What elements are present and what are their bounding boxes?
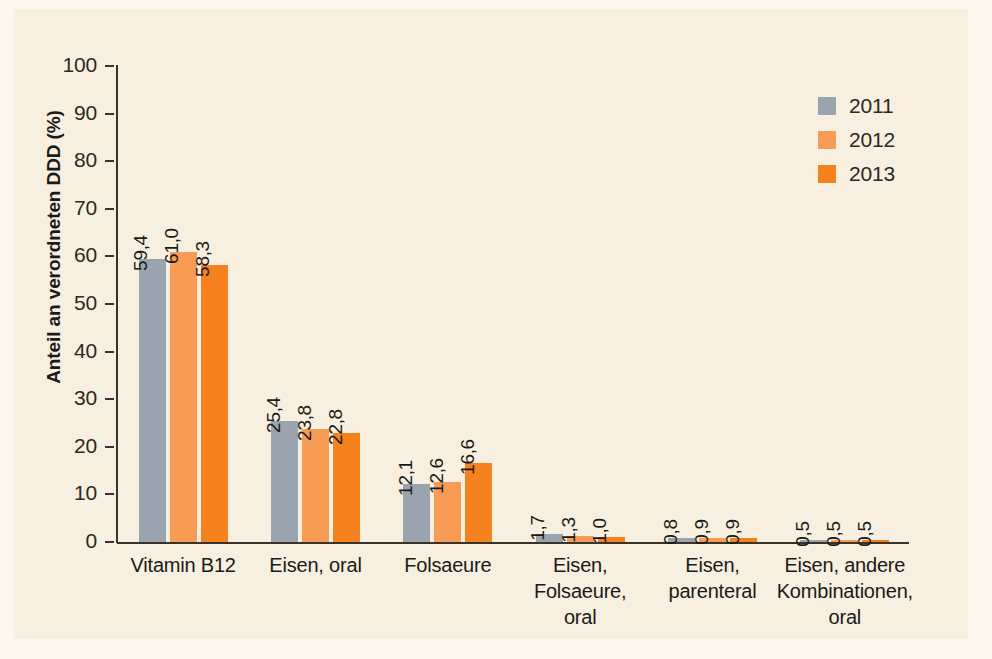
bar-value-label: 23,8 xyxy=(294,405,316,441)
y-axis-tick-mark xyxy=(105,160,114,162)
bar[interactable]: 12,6 xyxy=(434,482,461,542)
y-axis-tick-mark xyxy=(105,398,114,400)
bar[interactable]: 1,0 xyxy=(598,537,625,542)
x-axis-category-label: Eisen, andereKombinationen,oral xyxy=(755,552,935,630)
bar-value-label: 59,4 xyxy=(130,235,152,271)
bar-value-label: 0,9 xyxy=(691,519,713,545)
bar[interactable]: 22,8 xyxy=(333,433,360,542)
chart-panel: Anteil an verordneten DDD (%) 0102030405… xyxy=(13,9,968,639)
bar-value-label: 22,8 xyxy=(325,410,347,446)
y-axis-tick-mark xyxy=(105,446,114,448)
bar[interactable]: 58,3 xyxy=(201,265,228,543)
y-axis-tick-label: 50 xyxy=(27,291,97,315)
y-axis-tick-label: 30 xyxy=(27,386,97,410)
legend-swatch-icon xyxy=(818,165,836,183)
legend-label: 2013 xyxy=(849,162,895,186)
bar-value-label: 0,8 xyxy=(660,519,682,545)
bar-group: 12,112,616,6Folsaeure xyxy=(403,66,492,542)
bar-value-label: 0,9 xyxy=(722,519,744,545)
bar-group: 0,80,90,9Eisen,parenteral xyxy=(668,66,757,542)
y-axis-tick-mark xyxy=(105,351,114,353)
y-axis-tick-mark xyxy=(105,113,114,115)
bar-value-label: 1,7 xyxy=(527,515,549,541)
bar-value-label: 58,3 xyxy=(192,241,214,277)
bar[interactable]: 0,5 xyxy=(862,540,889,542)
legend-item[interactable]: 2011 xyxy=(818,89,895,123)
y-axis-tick-mark xyxy=(105,541,114,543)
bar-group: 1,71,31,0Eisen,Folsaeure,oral xyxy=(536,66,625,542)
legend-item[interactable]: 2012 xyxy=(818,123,895,157)
bar[interactable]: 16,6 xyxy=(465,463,492,542)
bar[interactable]: 0,9 xyxy=(730,538,757,542)
bar[interactable]: 61,0 xyxy=(170,252,197,542)
bar-value-label: 16,6 xyxy=(457,439,479,475)
y-axis-tick-label: 20 xyxy=(27,434,97,458)
bar[interactable]: 23,8 xyxy=(302,429,329,542)
bar[interactable]: 59,4 xyxy=(139,259,166,542)
plot-area: 59,461,058,3Vitamin B1225,423,822,8Eisen… xyxy=(117,66,911,542)
legend-swatch-icon xyxy=(818,131,836,149)
bar-group: 59,461,058,3Vitamin B12 xyxy=(139,66,228,542)
bar-value-label: 12,6 xyxy=(426,458,448,494)
y-axis-tick-mark xyxy=(105,303,114,305)
y-axis-tick-label: 70 xyxy=(27,196,97,220)
y-axis-tick-label: 100 xyxy=(27,53,97,77)
y-axis-tick-mark xyxy=(105,255,114,257)
x-axis-category-line: Kombinationen, xyxy=(755,578,935,604)
figure: Anteil an verordneten DDD (%) 0102030405… xyxy=(0,0,992,659)
y-axis-tick-label: 40 xyxy=(27,339,97,363)
bar-value-label: 61,0 xyxy=(161,228,183,264)
bar-value-label: 25,4 xyxy=(263,397,285,433)
x-axis-line xyxy=(117,542,909,544)
y-axis-tick-label: 90 xyxy=(27,101,97,125)
bar-value-label: 0,5 xyxy=(792,521,814,547)
bar-group: 25,423,822,8Eisen, oral xyxy=(271,66,360,542)
y-axis-tick-mark xyxy=(105,208,114,210)
bar-value-label: 0,5 xyxy=(854,521,876,547)
x-axis-category-line: Eisen, andere xyxy=(755,552,935,578)
y-axis-tick-label: 10 xyxy=(27,481,97,505)
x-axis-category-line: oral xyxy=(755,604,935,630)
bar-value-label: 12,1 xyxy=(395,461,417,497)
bar-value-label: 1,3 xyxy=(558,517,580,543)
x-axis-category-line: oral xyxy=(490,604,670,630)
bar-value-label: 0,5 xyxy=(823,521,845,547)
legend-item[interactable]: 2013 xyxy=(818,157,895,191)
y-axis-tick-label: 80 xyxy=(27,148,97,172)
y-axis-tick-label: 60 xyxy=(27,243,97,267)
legend: 201120122013 xyxy=(818,89,895,191)
legend-swatch-icon xyxy=(818,97,836,115)
bar-value-label: 1,0 xyxy=(589,518,611,544)
y-axis-tick-mark xyxy=(105,65,114,67)
legend-label: 2012 xyxy=(849,128,895,152)
y-axis-tick-mark xyxy=(105,493,114,495)
y-axis-tick-label: 0 xyxy=(27,529,97,553)
legend-label: 2011 xyxy=(849,94,893,118)
